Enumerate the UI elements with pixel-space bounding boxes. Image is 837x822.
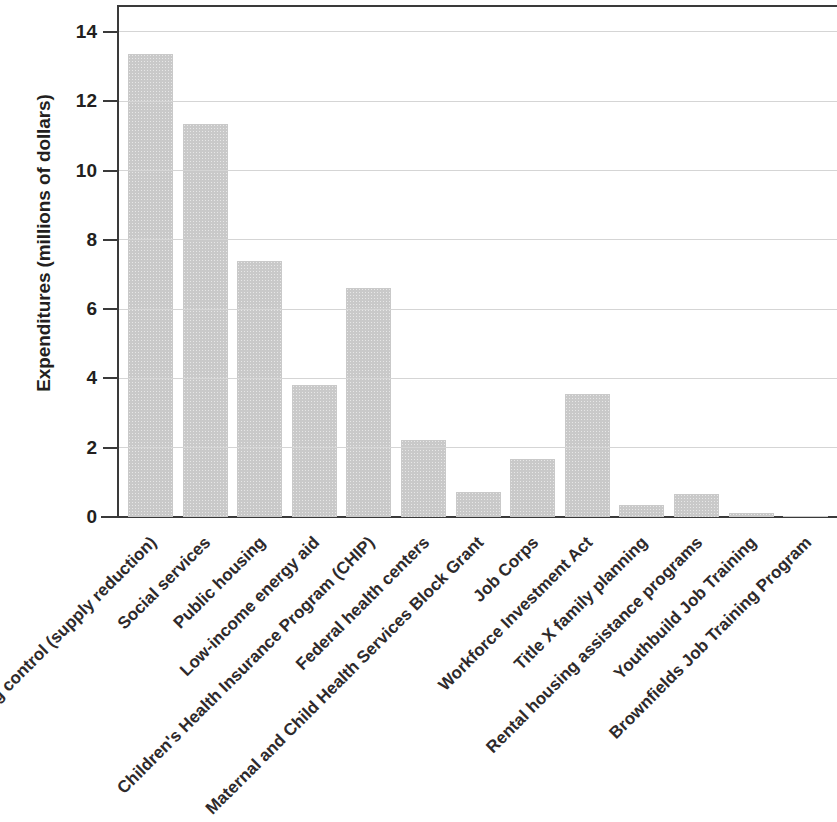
y-tick-mark	[103, 31, 118, 33]
y-tick-mark	[103, 100, 118, 102]
x-axis-tick-label-text: Drug control (supply reduction)	[0, 533, 160, 727]
gridline	[119, 239, 837, 240]
gridline	[119, 170, 837, 171]
x-axis-tick-label-text: Social services	[114, 533, 215, 634]
x-axis-tick-label-text: Brownfields Job Training Program	[605, 533, 816, 744]
y-tick-mark	[103, 516, 118, 518]
gridline	[119, 31, 837, 32]
y-tick-mark	[103, 447, 118, 449]
gridline	[119, 101, 837, 102]
x-axis-tick-label-text: Children's Health Insurance Program (CHI…	[113, 533, 378, 798]
y-tick-mark	[103, 170, 118, 172]
bar-chart-figure: Expenditures (millions of dollars) 02468…	[0, 0, 837, 822]
gridline	[119, 378, 837, 379]
y-tick-mark	[103, 239, 118, 241]
gridline	[119, 447, 837, 448]
y-tick-mark	[103, 308, 118, 310]
gridline	[119, 309, 837, 310]
y-tick-mark	[103, 377, 118, 379]
